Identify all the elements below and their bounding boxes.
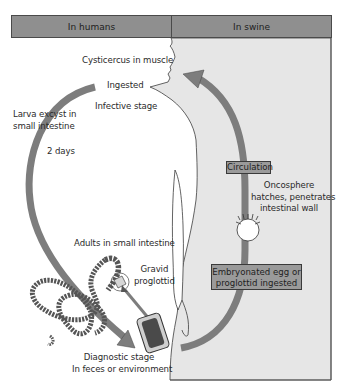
label-gravid-line1: Gravid [134,264,175,276]
label-diagnostic-line1: Diagnostic stage [72,352,166,364]
label-egg-line1: Embryonated egg or [212,267,301,278]
header-left-label: In humans [68,22,115,32]
oncosphere-icon [237,219,259,241]
circulation-box: Circulation [226,161,271,174]
label-diagnostic: Diagnostic stage In feces or environment [72,352,166,375]
label-larva-line2: small intestine [13,121,76,133]
header-right-label: In swine [233,22,270,32]
label-diagnostic-line2: In feces or environment [72,364,166,376]
label-2-days: 2 days [47,146,75,158]
label-oncosphere-line2: hatches, penetrates [251,192,327,204]
label-cysticercus: Cysticercus in muscle [82,55,173,67]
label-larva: Larva excyst in small intestine [13,109,76,132]
egg-ingested-box: Embryonated egg or proglottid ingested [211,264,302,290]
label-gravid: Gravid proglottid [134,264,175,287]
label-egg-line2: proglottid ingested [212,278,301,289]
label-ingested: Ingested [107,80,144,92]
label-circulation: Circulation [227,162,273,172]
label-oncosphere-line3: intestinal wall [251,203,327,215]
label-gravid-line2: proglottid [134,276,175,288]
proglottid-icon [136,312,170,354]
label-oncosphere-line1: Oncosphere [251,180,327,192]
label-adults: Adults in small intestine [74,238,175,250]
label-infective-stage: Infective stage [95,101,157,113]
header-in-humans: In humans [11,15,172,38]
header-in-swine: In swine [171,15,332,38]
label-larva-line1: Larva excyst in [13,109,76,121]
label-oncosphere: Oncosphere hatches, penetrates intestina… [251,180,327,215]
